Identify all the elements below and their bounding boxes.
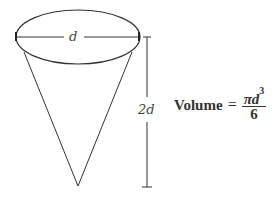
formula-equals: = <box>228 96 237 114</box>
formula-numerator: πd3 <box>242 88 267 106</box>
numerator-text: πd <box>244 91 260 107</box>
formula-fraction: πd3 6 <box>242 88 267 122</box>
cone-right-side <box>78 52 132 186</box>
formula-lhs: Volume <box>174 97 223 114</box>
formula-exponent: 3 <box>259 85 264 96</box>
volume-formula: Volume = πd3 6 <box>174 88 266 122</box>
formula-denominator: 6 <box>250 107 258 122</box>
diameter-label: d <box>69 29 77 44</box>
cone-left-side <box>24 52 78 186</box>
height-label: 2d <box>137 102 155 117</box>
